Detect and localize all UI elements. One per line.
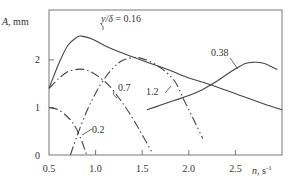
x-tick-label: 0.5 xyxy=(43,163,56,174)
x-tick-label: 2.5 xyxy=(229,163,242,174)
leader-12 xyxy=(165,86,171,93)
x-tick-label: 1.5 xyxy=(136,163,149,174)
y-axis-unit: , mm xyxy=(8,16,29,27)
y-axis-label: A, mm xyxy=(1,16,29,27)
x-tick-label: 2.0 xyxy=(183,163,196,174)
curves xyxy=(49,36,282,155)
y-tick-label: 2 xyxy=(35,54,40,65)
x-tick-label: 1.0 xyxy=(89,163,102,174)
curve-07 xyxy=(49,69,152,151)
x-axis-ticks: 0.51.01.52.02.5 xyxy=(43,150,242,174)
curve-label-07: 0.7 xyxy=(118,82,131,93)
leader-016 xyxy=(101,24,103,30)
plot-frame xyxy=(49,10,282,155)
curve-label-016-value: = 0.16 xyxy=(113,13,141,24)
curve-label-038: 0.38 xyxy=(211,47,229,58)
y-tick-label: 0 xyxy=(35,150,40,161)
curve-12 xyxy=(70,57,202,155)
curve-016 xyxy=(49,36,282,110)
x-axis-exponent: -1 xyxy=(266,164,272,172)
curve-label-016-symbol: y/δ xyxy=(100,13,113,24)
x-axis-unit: , s xyxy=(257,165,266,176)
curve-label-12: 1.2 xyxy=(146,86,159,97)
curve-02 xyxy=(49,108,86,155)
chart: 0.51.01.52.02.5 012 A, mm n, s-1 y/δ = 0… xyxy=(0,0,298,179)
x-axis-label: n, s-1 xyxy=(252,164,272,176)
y-tick-label: 1 xyxy=(35,102,40,113)
leader-038 xyxy=(230,58,238,69)
leader-02 xyxy=(82,129,92,135)
curve-label-02: 0.2 xyxy=(92,124,105,135)
label-leaders xyxy=(82,24,238,135)
curve-label-016: y/δ = 0.16 xyxy=(100,13,141,24)
